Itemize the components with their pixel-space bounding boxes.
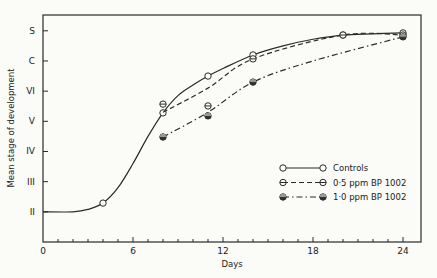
series-line: [163, 37, 403, 137]
data-point: [250, 56, 256, 62]
data-point: [160, 101, 166, 107]
y-tick-label: V: [29, 116, 36, 126]
series-1: [160, 32, 406, 112]
legend-marker-right: [320, 194, 326, 200]
y-tick-label: VI: [26, 86, 35, 96]
data-point: [160, 134, 166, 140]
plot-frame: [43, 15, 421, 242]
y-tick-label: S: [29, 26, 35, 36]
data-point: [400, 34, 406, 40]
data-point: [100, 200, 106, 206]
x-tick-label: 6: [130, 246, 136, 256]
open-circle-marker: [280, 165, 286, 171]
legend-item: 0·5 ppm BP 1002: [280, 178, 406, 188]
data-point: [205, 73, 211, 79]
legend-label: Controls: [333, 163, 369, 173]
y-tick-label: C: [29, 56, 35, 66]
plot-border: [43, 15, 421, 242]
legend-item: Controls: [280, 163, 369, 173]
y-tick-label: II: [30, 207, 35, 217]
series-2: [160, 34, 406, 141]
x-axis-title: Days: [221, 259, 243, 269]
legend: Controls0·5 ppm BP 10021·0 ppm BP 1002: [280, 163, 406, 202]
x-tick-label: 0: [40, 246, 46, 256]
y-tick-label: III: [27, 177, 35, 187]
chart: 06121824 IIIIIIVVVICS Days Mean stage of…: [0, 0, 437, 278]
legend-marker-right: [320, 165, 326, 171]
legend-marker-right: [320, 179, 326, 185]
legend-label: 1·0 ppm BP 1002: [333, 192, 406, 202]
x-tick-label: 24: [397, 246, 409, 256]
x-axis: 06121824: [40, 237, 409, 256]
x-tick-label: 18: [307, 246, 319, 256]
open-circle-marker: [100, 200, 106, 206]
open-circle-marker: [320, 165, 326, 171]
y-tick-label: IV: [26, 146, 36, 156]
legend-marker-left: [280, 165, 286, 171]
y-axis: IIIIIIVVVICS: [26, 26, 48, 217]
open-circle-marker: [205, 73, 211, 79]
y-axis-title: Mean stage of development: [6, 68, 16, 188]
data-point: [205, 103, 211, 109]
data-point: [340, 32, 346, 38]
data-point: [250, 79, 256, 85]
legend-marker-left: [280, 179, 286, 185]
legend-marker-left: [280, 194, 286, 200]
legend-label: 0·5 ppm BP 1002: [333, 178, 406, 188]
legend-item: 1·0 ppm BP 1002: [280, 192, 406, 202]
data-point: [205, 113, 211, 119]
series-line: [163, 33, 403, 112]
x-tick-label: 12: [217, 246, 228, 256]
